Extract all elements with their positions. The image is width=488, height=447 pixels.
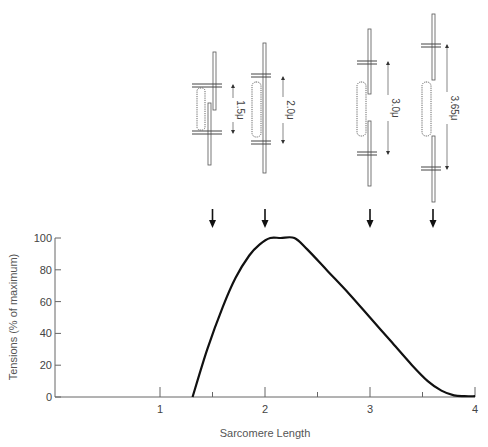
y-ticks: 020406080100 [34,232,61,403]
sarcomere-diagram-2-0: 2.0μ [251,43,296,173]
x-tick-label: 1 [157,403,163,415]
arrow-down-icon [430,220,437,228]
y-axis-title: Tensions (% of maximum) [7,254,19,381]
sarcomere-diagram-1-5: 1.5μ [192,52,246,165]
dimension-arrowhead [281,76,285,80]
y-tick-label: 60 [40,296,52,308]
dimension-arrowhead [445,44,449,48]
arrow-down-icon [209,220,216,228]
myosin-filament [357,82,366,136]
length-tension-figure: 1.5μ 2.0μ 3 [0,0,488,447]
sarcomere-diagram-3-0: 3.0μ [357,29,401,186]
dimension-arrowhead [281,140,285,144]
myosin-filament [422,82,431,136]
x-tick-label: 3 [367,403,373,415]
actin-filament [432,136,435,202]
dimension-arrowhead [231,130,235,134]
y-tick-label: 40 [40,327,52,339]
x-ticks: 1234 [157,387,478,415]
dimension-arrowhead [386,61,390,65]
x-tick-label: 4 [472,403,478,415]
tension-curve [193,237,475,397]
diagram-label: 3.65μ [449,95,460,120]
diagram-label: 2.0μ [285,100,296,120]
dimension-arrowhead [445,166,449,170]
series-group [193,237,475,397]
arrow-markers [209,209,437,228]
actin-filament [368,121,371,186]
arrow-down-icon [262,220,269,228]
diagram-label: 3.0μ [390,98,401,118]
axes: 020406080100 1234 [34,232,478,415]
y-tick-label: 0 [46,391,52,403]
sarcomere-diagram-3-65: 3.65μ [421,14,460,202]
y-tick-label: 80 [40,264,52,276]
arrow-down-icon [367,220,374,228]
y-tick-label: 20 [40,359,52,371]
x-tick-label: 2 [262,403,268,415]
diagram-label: 1.5μ [235,100,246,120]
dimension-arrowhead [231,84,235,88]
myosin-filament [252,82,261,137]
actin-filament [263,43,266,173]
myosin-filament [197,88,205,130]
y-tick-label: 100 [34,232,52,244]
x-axis-title: Sarcomere Length [220,427,311,439]
actin-filament [213,52,216,110]
sarcomere-diagrams: 1.5μ 2.0μ 3 [192,14,460,202]
dimension-arrowhead [386,151,390,155]
